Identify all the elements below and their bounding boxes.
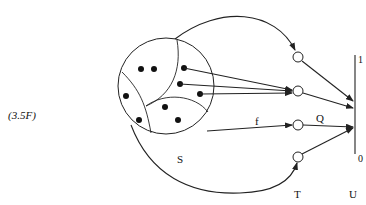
nodes-label: T	[294, 188, 301, 200]
point	[123, 93, 129, 99]
node	[293, 86, 303, 96]
arrow	[175, 16, 295, 50]
node	[293, 152, 303, 162]
function-label: Q	[316, 112, 324, 124]
t-nodes	[293, 52, 303, 162]
arrow	[184, 68, 292, 90]
point	[151, 66, 157, 72]
f-arrow	[207, 125, 292, 131]
point	[138, 66, 144, 72]
q-arrow	[303, 125, 353, 127]
point	[175, 117, 181, 123]
equation-label: (3.5F)	[8, 109, 36, 122]
arrow	[302, 128, 353, 154]
arrows-to-interval	[302, 61, 353, 154]
partition-line	[146, 40, 178, 106]
interval-bottom-label: 0	[358, 153, 363, 164]
set-boundary	[118, 38, 214, 134]
partitioned-set	[118, 38, 214, 134]
arrow	[180, 84, 292, 91]
arrows-to-nodes	[131, 16, 297, 193]
node	[293, 52, 303, 62]
interval-top-label: 1	[358, 54, 363, 65]
set-label: S	[177, 153, 183, 165]
arrow	[131, 125, 297, 193]
partition-line	[146, 97, 208, 112]
point	[162, 104, 168, 110]
interval-label: U	[349, 188, 357, 200]
map-label: f	[255, 115, 259, 127]
node	[293, 120, 303, 130]
point	[136, 117, 142, 123]
diagram-canvas: (3.5F) S f Q	[0, 0, 366, 205]
